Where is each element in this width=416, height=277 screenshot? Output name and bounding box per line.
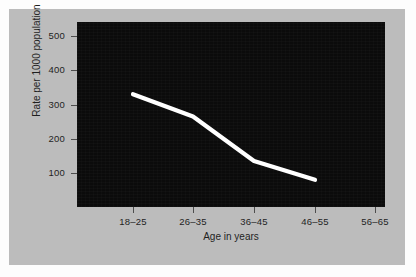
plot-area [77,22,385,207]
x-tick-46-55 [315,207,316,213]
x-tick-label-56-65: 56–65 [347,216,403,227]
chart-screenshot: 500 400 300 200 100 18–25 26–35 36–45 46… [0,0,416,277]
y-tick-300 [71,105,77,106]
data-series-line [133,94,315,180]
x-tick-36-45 [254,207,255,213]
y-tick-label-200: 200 [25,133,65,144]
x-tick-label-26-35: 26–35 [165,216,221,227]
y-tick-400 [71,70,77,71]
figure-card: 500 400 300 200 100 18–25 26–35 36–45 46… [9,9,405,265]
y-tick-500 [71,36,77,37]
y-tick-100 [71,173,77,174]
x-axis-title: Age in years [77,231,385,242]
x-tick-18-25 [133,207,134,213]
x-tick-label-36-45: 36–45 [226,216,282,227]
y-tick-200 [71,139,77,140]
x-tick-label-46-55: 46–55 [287,216,343,227]
y-tick-label-100: 100 [25,167,65,178]
x-tick-56-65 [375,207,376,213]
data-line-svg [77,22,385,207]
y-axis-title: Rate per 1000 population [31,0,42,126]
x-tick-label-18-25: 18–25 [105,216,161,227]
line-chart-figure: 500 400 300 200 100 18–25 26–35 36–45 46… [9,9,405,265]
x-tick-26-35 [193,207,194,213]
